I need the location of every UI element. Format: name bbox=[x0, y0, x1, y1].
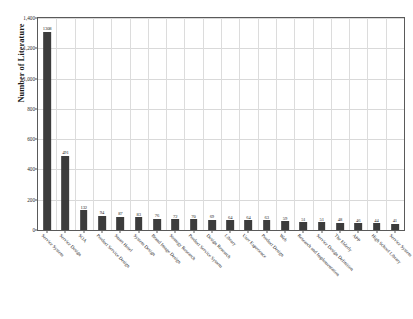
x-tick-label: Product Service System bbox=[187, 233, 223, 269]
x-tick-label: Product Service Design bbox=[96, 233, 132, 269]
bar bbox=[354, 223, 362, 230]
y-tick-mark bbox=[35, 78, 38, 79]
bar-value-label: 59 bbox=[283, 216, 287, 221]
y-tick-label: 1,000 bbox=[23, 76, 35, 82]
bar-layer: 1308491132948783767270696464635951514846… bbox=[38, 18, 404, 230]
bar bbox=[281, 221, 289, 230]
bar bbox=[117, 217, 125, 230]
bar bbox=[98, 216, 106, 230]
bar-value-label: 64 bbox=[246, 215, 250, 220]
bar-value-label: 46 bbox=[356, 218, 360, 223]
bar bbox=[80, 210, 88, 230]
x-tick-label: Library bbox=[224, 233, 238, 247]
x-tick-label: Web bbox=[279, 233, 289, 243]
y-tick-mark bbox=[35, 108, 38, 109]
y-tick-label: 400 bbox=[27, 166, 35, 172]
bar-value-label: 70 bbox=[191, 214, 195, 219]
x-axis-labels: Service SystemService DesignSOAProduct S… bbox=[37, 233, 405, 299]
bar-value-label: 41 bbox=[393, 218, 397, 223]
y-tick-label: 1,400 bbox=[23, 15, 35, 21]
bar-value-label: 83 bbox=[136, 212, 140, 217]
bar-value-label: 72 bbox=[173, 214, 177, 219]
bar bbox=[318, 222, 326, 230]
bar bbox=[263, 220, 271, 230]
y-tick-mark bbox=[35, 169, 38, 170]
x-tick-label: APP bbox=[352, 233, 362, 243]
bar bbox=[43, 32, 51, 230]
y-tick-label: 600 bbox=[27, 136, 35, 142]
bar-value-label: 76 bbox=[155, 213, 159, 218]
bar bbox=[208, 220, 216, 230]
bar-value-label: 69 bbox=[210, 214, 214, 219]
bar bbox=[226, 220, 234, 230]
bar bbox=[171, 219, 179, 230]
plot-area: 1308491132948783767270696464635951514846… bbox=[37, 17, 405, 231]
bar bbox=[135, 217, 143, 230]
y-tick-mark bbox=[35, 48, 38, 49]
x-tick-label: Service Design Definition bbox=[315, 233, 354, 272]
bar-value-label: 64 bbox=[228, 215, 232, 220]
bar-value-label: 51 bbox=[319, 217, 323, 222]
bar bbox=[153, 219, 161, 231]
y-tick-mark bbox=[35, 18, 38, 19]
bar-value-label: 63 bbox=[265, 215, 269, 220]
bar bbox=[373, 223, 381, 230]
y-tick-label: 200 bbox=[27, 197, 35, 203]
bar-value-label: 87 bbox=[118, 211, 122, 216]
bar-value-label: 51 bbox=[301, 217, 305, 222]
y-tick-label: 0 bbox=[32, 227, 35, 233]
y-tick-mark bbox=[35, 230, 38, 231]
bar-value-label: 1308 bbox=[43, 26, 52, 31]
bar bbox=[245, 220, 253, 230]
y-tick-mark bbox=[35, 199, 38, 200]
bar bbox=[62, 156, 70, 230]
y-tick-label: 800 bbox=[27, 106, 35, 112]
x-tick-label: SOA bbox=[77, 233, 87, 243]
bar bbox=[190, 219, 198, 230]
bar-value-label: 132 bbox=[80, 205, 87, 210]
bar-value-label: 44 bbox=[374, 218, 378, 223]
bar-value-label: 94 bbox=[100, 210, 104, 215]
y-tick-label: 1,200 bbox=[23, 45, 35, 51]
bar bbox=[300, 222, 308, 230]
bar-value-label: 491 bbox=[62, 150, 69, 155]
bar-value-label: 48 bbox=[338, 217, 342, 222]
bar bbox=[336, 223, 344, 230]
y-tick-mark bbox=[35, 139, 38, 140]
